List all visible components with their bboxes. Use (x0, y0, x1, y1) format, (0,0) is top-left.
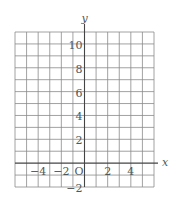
y-axis-label: y (80, 12, 88, 25)
axes (15, 24, 158, 187)
y-tick-label: 6 (76, 87, 83, 100)
x-tick-label: 4 (127, 165, 134, 178)
origin-label: O (74, 165, 83, 178)
x-tick-label: −4 (30, 165, 46, 178)
x-axis-label: x (162, 156, 169, 169)
x-tick-label: 2 (104, 165, 111, 178)
y-tick-label: 2 (76, 134, 83, 147)
y-tick-label: −2 (66, 182, 82, 195)
y-tick-label: 10 (69, 39, 83, 52)
y-tick-label: 4 (76, 110, 83, 123)
y-tick-label: 8 (76, 63, 83, 76)
x-tick-label: −2 (53, 165, 69, 178)
coordinate-grid: xy−4−224108642−2O (0, 0, 174, 199)
